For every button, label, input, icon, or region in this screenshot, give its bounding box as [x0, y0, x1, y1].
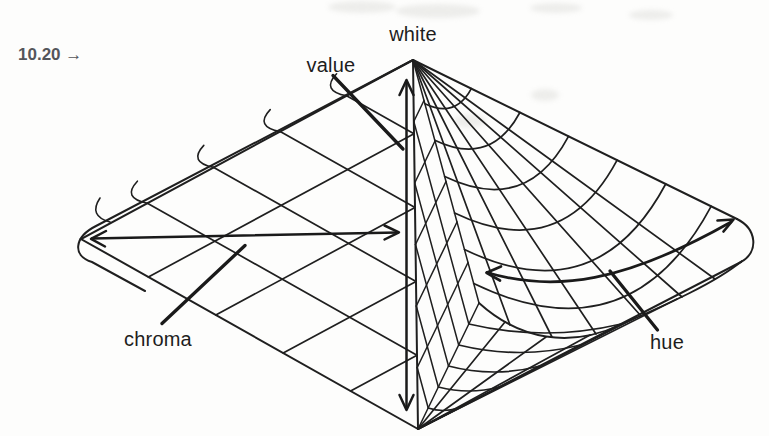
label-value: value [307, 54, 356, 77]
value-axis-arrow [400, 80, 414, 410]
label-hue: hue [650, 331, 684, 354]
label-white: white [389, 23, 437, 46]
left-silhouette-edges [78, 60, 418, 429]
figure-panel: 10.20 → white value chroma hue [0, 0, 769, 436]
label-chroma: chroma [124, 328, 192, 351]
figure-number-label: 10.20 → [18, 45, 82, 65]
print-bleed-artifacts [328, 1, 673, 128]
chroma-axis-arrow [91, 226, 399, 247]
color-solid-wireframe [0, 0, 769, 436]
label-pointer-lines [162, 76, 658, 331]
